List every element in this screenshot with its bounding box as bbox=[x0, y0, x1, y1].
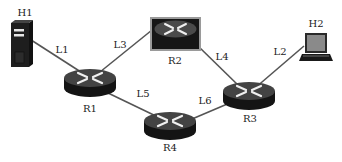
link-l3 bbox=[100, 30, 152, 72]
laptop-icon bbox=[299, 33, 333, 61]
server-icon bbox=[11, 20, 33, 67]
router-icon-r4 bbox=[144, 112, 196, 140]
link-label-l6: L6 bbox=[198, 96, 211, 106]
node-label-h2: H2 bbox=[308, 19, 323, 29]
node-label-r4: R4 bbox=[163, 143, 177, 153]
node-label-r2: R2 bbox=[168, 56, 182, 66]
link-label-l1: L1 bbox=[55, 45, 68, 55]
link-label-l4: L4 bbox=[215, 52, 228, 62]
router-icon-r3 bbox=[223, 82, 275, 110]
node-label-r1: R1 bbox=[83, 104, 97, 114]
router-icon-r1 bbox=[64, 69, 116, 97]
network-diagram bbox=[0, 0, 342, 162]
link-label-l3: L3 bbox=[113, 40, 126, 50]
link-label-l5: L5 bbox=[136, 89, 149, 99]
router-icon-r2 bbox=[150, 17, 201, 51]
link-l5 bbox=[108, 93, 160, 118]
link-label-l2: L2 bbox=[273, 47, 286, 57]
node-label-r3: R3 bbox=[243, 114, 257, 124]
node-label-h1: H1 bbox=[17, 8, 32, 18]
